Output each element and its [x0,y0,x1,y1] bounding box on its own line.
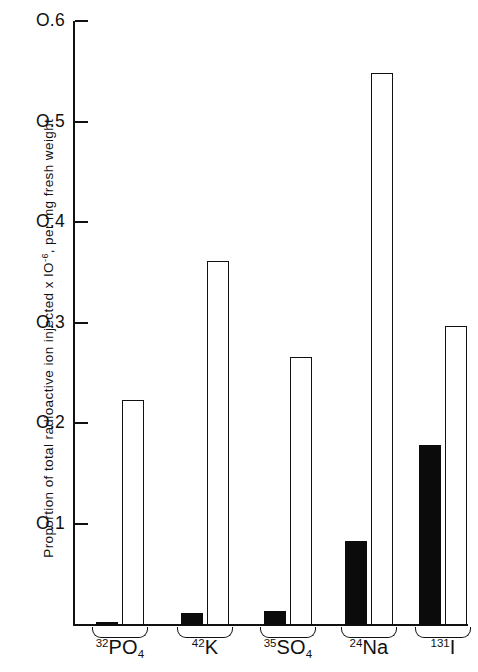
chart-figure: Proportion of total radioactive ion inje… [0,0,478,672]
isotope-number-35SO4: 35 [264,637,277,649]
element-symbol-131I: I [450,636,456,658]
isotope-number-131I: 131 [431,637,450,649]
element-subscript-32PO4: 4 [138,648,145,660]
isotope-number-32PO4: 32 [96,637,109,649]
group-label-131I: 131I [383,636,478,659]
isotope-number-42K: 42 [192,637,205,649]
isotope-number-24Na: 24 [350,637,363,649]
element-symbol-35SO4: SO [276,636,305,658]
x-axis-group-labels: 32PO442K35SO424Na131I [0,0,478,672]
element-symbol-32PO4: PO [108,636,137,658]
element-symbol-42K: K [205,636,219,658]
